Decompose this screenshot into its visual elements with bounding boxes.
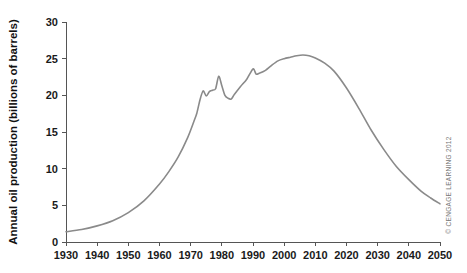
y-axis-title: Annual oil production (billions of barre… bbox=[7, 19, 19, 245]
x-axis-tick-label: 1930 bbox=[54, 249, 78, 261]
x-axis-tick-label: 1950 bbox=[116, 249, 140, 261]
x-axis-tick-label: 2050 bbox=[428, 249, 452, 261]
y-axis-tick-label: 5 bbox=[52, 199, 58, 211]
x-axis-tick-label: 2000 bbox=[272, 249, 296, 261]
chart-labels: 0510152025301930194019501960197019801990… bbox=[7, 16, 452, 261]
chart-series bbox=[66, 55, 440, 232]
x-axis-tick-label: 1990 bbox=[241, 249, 265, 261]
series-line-0 bbox=[66, 55, 440, 232]
y-axis-tick-label: 0 bbox=[52, 236, 58, 248]
x-axis-tick-label: 2010 bbox=[303, 249, 327, 261]
chart-axes bbox=[62, 22, 440, 246]
x-axis-tick-label: 2020 bbox=[334, 249, 358, 261]
x-axis-tick-label: 2030 bbox=[365, 249, 389, 261]
y-axis-tick-label: 20 bbox=[46, 89, 58, 101]
x-axis-tick-label: 1980 bbox=[210, 249, 234, 261]
y-axis-tick-label: 10 bbox=[46, 163, 58, 175]
x-axis-tick-label: 2040 bbox=[397, 249, 421, 261]
x-axis-tick-label: 1960 bbox=[147, 249, 171, 261]
x-axis-tick-label: 1940 bbox=[85, 249, 109, 261]
oil-production-line-chart: 0510152025301930194019501960197019801990… bbox=[0, 0, 467, 273]
y-axis-tick-label: 25 bbox=[46, 53, 58, 65]
x-axis-tick-label: 1970 bbox=[178, 249, 202, 261]
y-axis-tick-label: 15 bbox=[46, 126, 58, 138]
chart-page: 0510152025301930194019501960197019801990… bbox=[0, 0, 467, 273]
y-axis-tick-label: 30 bbox=[46, 16, 58, 28]
copyright-credit-text: © CENGAGE LEARNING 2012 bbox=[445, 136, 452, 233]
